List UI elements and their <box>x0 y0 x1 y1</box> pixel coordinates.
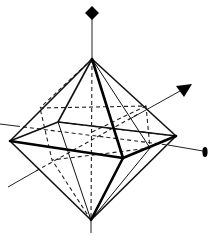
edge-top-left <box>10 59 92 141</box>
inner-square-hidden <box>40 106 150 160</box>
hidden-edge-inner-mid <box>92 106 146 132</box>
edge-bottom-back <box>58 122 91 220</box>
edge-left-front <box>10 141 123 158</box>
hidden-edge-bottom-inner-left <box>52 160 91 220</box>
diamond-arrowhead-icon <box>85 6 99 20</box>
edge-front-right <box>123 136 176 158</box>
edge-top-back <box>58 59 92 122</box>
horizontal-axis-right <box>168 145 203 151</box>
diagonal-axis-hidden <box>36 113 140 171</box>
horizontal-axis-left <box>0 124 16 126</box>
diagram-canvas <box>0 0 213 247</box>
diagonal-axis-lower <box>8 171 36 187</box>
edge-front-bottom <box>91 158 123 220</box>
edge-left-back <box>10 122 58 141</box>
ellipse-arrowhead-icon <box>202 147 207 157</box>
edge-back-right <box>58 122 176 136</box>
octahedron-diagram <box>0 0 213 247</box>
edge-bottom-right <box>91 136 176 220</box>
triangle-arrowhead-icon <box>176 84 192 97</box>
